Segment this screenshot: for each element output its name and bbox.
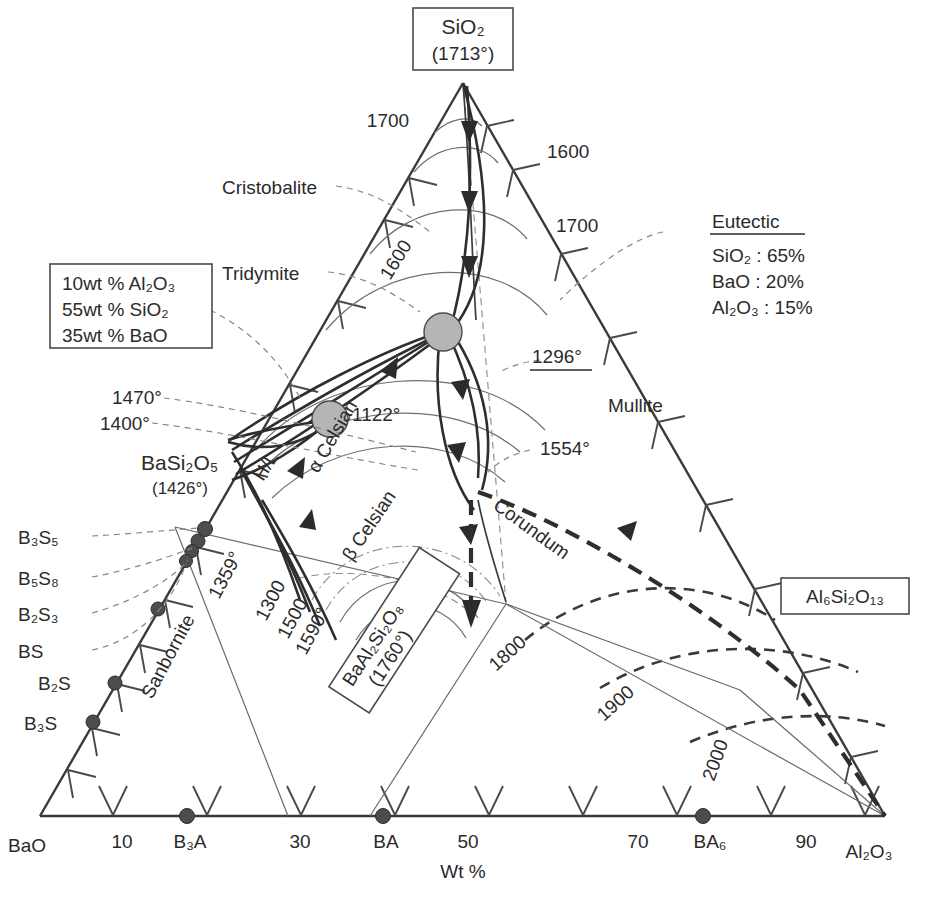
field-label-tridymite: Tridymite <box>222 263 299 284</box>
axis-tick-label-90: 90 <box>795 831 816 852</box>
eutectic-line-3: Al₂O₃ : 15% <box>712 297 813 318</box>
compound-label-basi2o5: BaSi₂O₅ (1426°) <box>141 451 218 498</box>
eutectic-title: Eutectic <box>712 211 780 232</box>
temp-label-1470: 1470° <box>112 387 162 408</box>
composition-line-1: 10wt % Al₂O₃ <box>62 273 175 294</box>
isotherm-label-1800: 1800 <box>485 631 530 675</box>
axis-tick-label-10: 10 <box>111 831 132 852</box>
temp-label-1359: 1359° <box>204 548 246 602</box>
al6si2o13-formula: Al₆Si₂O₁₃ <box>806 586 884 607</box>
temp-label-1296: 1296° <box>532 346 582 367</box>
compound-label-al6si2o13: Al₆Si₂O₁₃ <box>781 578 909 614</box>
axis-end-al2o3: Al₂O₃ <box>846 841 893 862</box>
basi2o5-formula: BaSi₂O₅ <box>141 451 218 474</box>
binary-label-b2s3: B₂S₃ <box>18 604 58 625</box>
eutectic-box: Eutectic SiO₂ : 65% BaO : 20% Al₂O₃ : 15… <box>710 211 813 318</box>
binary-label-b3s: B₃S <box>24 713 57 734</box>
eutectic-line-2: BaO : 20% <box>712 271 804 292</box>
axis-title-wt-percent: Wt % <box>440 861 485 882</box>
sio2-temperature: (1713°) <box>432 43 495 64</box>
axis-tick-label-b3a: B₃A <box>173 831 206 852</box>
ternary-phase-diagram: SiO₂ (1713°) Cristobalite Tridymite 1700… <box>0 0 931 899</box>
axis-tick-label-30: 30 <box>289 831 310 852</box>
axis-end-bao: BaO <box>8 835 46 856</box>
axis-tick-label-70: 70 <box>627 831 648 852</box>
isotherm-label-1600-left: 1600 <box>376 236 416 283</box>
binary-label-b3s5: B₃S₅ <box>18 527 59 548</box>
field-label-cristobalite: Cristobalite <box>222 177 317 198</box>
temp-label-1554: 1554° <box>540 438 590 459</box>
sio2-formula: SiO₂ <box>441 15 484 38</box>
temp-label-1296-group: 1296° <box>530 346 592 370</box>
isotherm-label-1900: 1900 <box>593 681 638 725</box>
binary-label-b5s8: B₅S₈ <box>18 568 59 589</box>
corundum-join <box>462 492 885 816</box>
field-label-hl: H/L <box>249 448 282 484</box>
axis-tick-label-ba: BA <box>373 831 399 852</box>
field-label-sanbornite: Sanbornite <box>137 611 199 702</box>
field-label-mullite: Mullite <box>608 395 663 416</box>
eutectic-line-1: SiO₂ : 65% <box>712 245 805 266</box>
temp-label-1400: 1400° <box>100 413 150 434</box>
composition-line-2: 55wt % SiO₂ <box>62 299 169 320</box>
vertex-label-sio2: SiO₂ (1713°) <box>413 8 513 70</box>
diagram-canvas: SiO₂ (1713°) Cristobalite Tridymite 1700… <box>0 0 931 899</box>
axis-tick-label-ba6: BA₆ <box>693 831 726 852</box>
isotherm-label-1700-right: 1700 <box>556 215 598 236</box>
compound-label-baal2si2o8: BaAl₂Si₂O₈ (1760°) <box>329 548 460 713</box>
liquidus-boundaries <box>228 83 506 640</box>
composition-line-3: 35wt % BaO <box>62 325 168 346</box>
isotherm-label-1600-upper-right: 1600 <box>547 141 589 162</box>
binary-label-bs: BS <box>18 641 43 662</box>
binary-label-b2s: B₂S <box>38 673 71 694</box>
axis-tick-label-50: 50 <box>457 831 478 852</box>
basi2o5-temperature: (1426°) <box>152 479 208 498</box>
composition-box: 10wt % Al₂O₃ 55wt % SiO₂ 35wt % BaO <box>50 264 212 348</box>
isotherm-curves <box>256 119 885 742</box>
isotherm-label-1700-upper-left: 1700 <box>367 110 409 131</box>
isotherm-label-2000: 2000 <box>698 736 732 783</box>
